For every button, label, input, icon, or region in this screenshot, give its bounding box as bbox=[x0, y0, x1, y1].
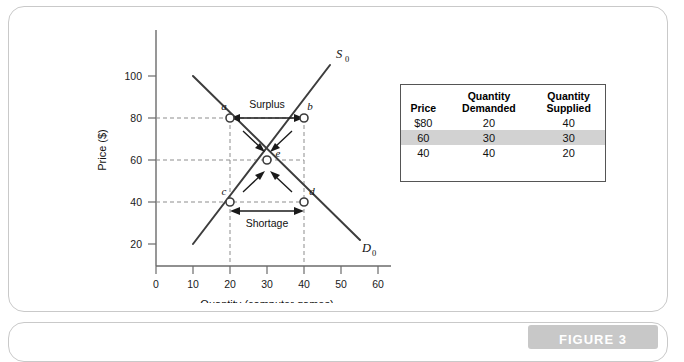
cell-price: $80 bbox=[401, 115, 446, 130]
chart-svg: 100 80 60 40 20 0 10 20 30 40 50 60 Quan… bbox=[86, 18, 406, 303]
point-e-marker bbox=[263, 156, 271, 164]
supply-curve-label: S 0 bbox=[336, 47, 349, 64]
cell-supplied: 40 bbox=[532, 115, 605, 130]
table-header-quantity-demanded: Quantity Demanded bbox=[446, 89, 533, 115]
point-d-label: d bbox=[309, 185, 315, 197]
table-row-equilibrium: 60 30 30 bbox=[401, 130, 605, 145]
x-tick-label-30: 30 bbox=[261, 278, 273, 290]
point-b-marker bbox=[300, 114, 308, 122]
table-header-row: Price Quantity Demanded Quantity Supplie… bbox=[401, 89, 605, 115]
shortage-arrow bbox=[230, 207, 304, 215]
x-tick-label-60: 60 bbox=[372, 278, 384, 290]
demand-curve-label: D 0 bbox=[361, 241, 376, 258]
cell-supplied: 30 bbox=[532, 130, 605, 145]
table-row: $80 20 40 bbox=[401, 115, 605, 130]
table-row: 40 40 20 bbox=[401, 145, 605, 160]
point-a-marker bbox=[226, 114, 234, 122]
svg-text:0: 0 bbox=[372, 248, 376, 258]
x-tick-label-10: 10 bbox=[187, 278, 199, 290]
cell-demanded: 20 bbox=[446, 115, 533, 130]
cell-demanded: 40 bbox=[446, 145, 533, 160]
x-tick-label-0: 0 bbox=[153, 278, 159, 290]
x-tick-label-20: 20 bbox=[224, 278, 236, 290]
point-c-label: c bbox=[222, 185, 227, 197]
x-axis-title: Quantity (computer games) bbox=[200, 298, 333, 303]
y-tick-label-40: 40 bbox=[130, 196, 142, 208]
x-axis-ticks bbox=[156, 266, 378, 274]
y-tick-label-80: 80 bbox=[130, 112, 142, 124]
y-tick-label-60: 60 bbox=[130, 154, 142, 166]
shortage-label: Shortage bbox=[246, 217, 289, 229]
cell-price: 40 bbox=[401, 145, 446, 160]
point-b-label: b bbox=[307, 100, 313, 112]
svg-text:0: 0 bbox=[345, 54, 349, 64]
header-demanded-line1: Quantity bbox=[468, 90, 511, 102]
x-tick-label-40: 40 bbox=[298, 278, 310, 290]
svg-text:D: D bbox=[361, 241, 371, 255]
supply-demand-chart: 100 80 60 40 20 0 10 20 30 40 50 60 Quan… bbox=[86, 18, 406, 303]
svg-text:S: S bbox=[336, 47, 343, 61]
table-header-quantity-supplied: Quantity Supplied bbox=[532, 89, 605, 115]
figure-number-badge: FIGURE 3 bbox=[528, 325, 658, 349]
surplus-label: Surplus bbox=[249, 98, 285, 110]
supply-demand-data-table: Price Quantity Demanded Quantity Supplie… bbox=[400, 84, 606, 182]
y-axis-title: Price ($) bbox=[96, 129, 108, 171]
y-tick-label-100: 100 bbox=[124, 70, 142, 82]
y-axis-ticks bbox=[148, 76, 156, 244]
x-tick-label-50: 50 bbox=[335, 278, 347, 290]
point-d-marker bbox=[300, 198, 308, 206]
header-supplied-line1: Quantity bbox=[547, 90, 590, 102]
point-a-label: a bbox=[221, 100, 227, 112]
point-e-label: e bbox=[276, 147, 281, 159]
header-demanded-line2: Demanded bbox=[462, 102, 516, 114]
point-c-marker bbox=[226, 198, 234, 206]
cell-price: 60 bbox=[401, 130, 446, 145]
table-header-price: Price bbox=[401, 89, 446, 115]
header-supplied-line2: Supplied bbox=[546, 102, 590, 114]
cell-supplied: 20 bbox=[532, 145, 605, 160]
y-tick-label-20: 20 bbox=[130, 238, 142, 250]
cell-demanded: 30 bbox=[446, 130, 533, 145]
surplus-arrow bbox=[230, 114, 304, 122]
